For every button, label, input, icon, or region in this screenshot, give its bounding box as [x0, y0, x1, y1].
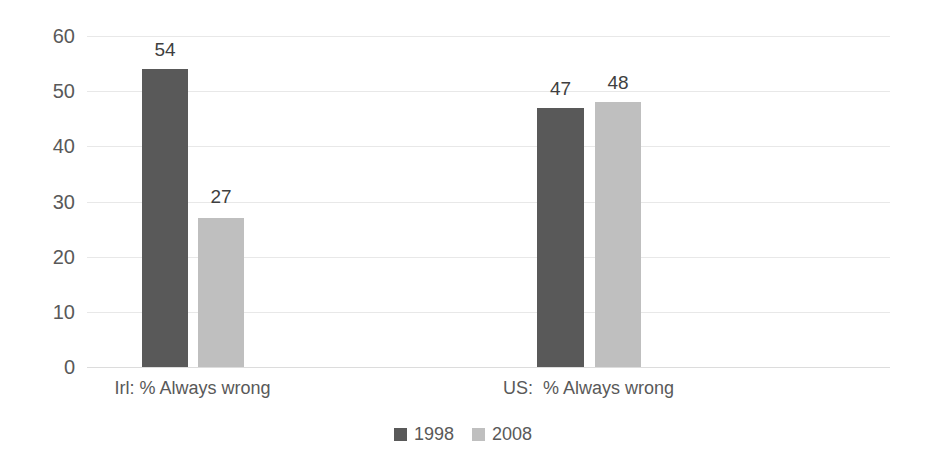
- data-label-irl-2008: 27: [198, 187, 244, 206]
- y-tick-10: 10: [15, 302, 75, 322]
- legend-swatch-2008-icon: [472, 428, 485, 441]
- gridline-40: [87, 146, 890, 147]
- y-tick-40: 40: [15, 136, 75, 156]
- y-tick-0: 0: [15, 357, 75, 377]
- data-label-us-2008: 48: [595, 73, 641, 92]
- bar-irl-1998[interactable]: [142, 69, 188, 367]
- legend-label-1998: 1998: [414, 425, 454, 443]
- bar-irl-2008[interactable]: [198, 218, 244, 367]
- legend-item-1998[interactable]: 1998: [394, 425, 454, 443]
- y-tick-20: 20: [15, 247, 75, 267]
- legend: 1998 2008: [0, 425, 926, 443]
- gridline-60: [87, 36, 890, 37]
- legend-label-2008: 2008: [492, 425, 532, 443]
- bar-us-1998[interactable]: [537, 108, 584, 367]
- y-tick-60: 60: [15, 26, 75, 46]
- legend-item-2008[interactable]: 2008: [472, 425, 532, 443]
- y-axis: 60 50 40 30 20 10 0: [0, 36, 75, 367]
- legend-swatch-1998-icon: [394, 428, 407, 441]
- category-label-us: US: % Always wrong: [396, 378, 781, 400]
- y-tick-50: 50: [15, 81, 75, 101]
- bar-us-2008[interactable]: [595, 102, 641, 367]
- gridline-0: [87, 367, 890, 368]
- data-label-us-1998: 47: [537, 79, 584, 98]
- gridline-50: [87, 91, 890, 92]
- data-label-irl-1998: 54: [142, 40, 188, 59]
- y-tick-30: 30: [15, 192, 75, 212]
- category-label-irl: Irl: % Always wrong: [0, 378, 385, 400]
- bar-chart: 60 50 40 30 20 10 0 54 27 47 48 Irl: % A…: [0, 0, 926, 475]
